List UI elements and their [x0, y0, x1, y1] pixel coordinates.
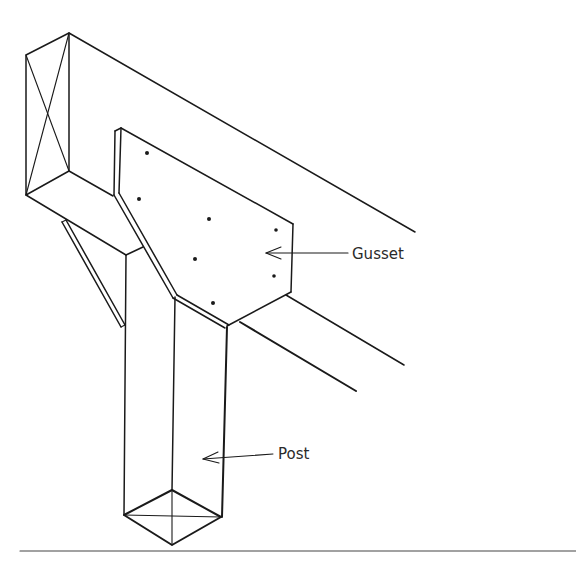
connection-diagram: Gusset Post [0, 0, 576, 573]
gusset-label: Gusset [352, 245, 404, 263]
gusset-plate [114, 128, 293, 328]
post-label: Post [278, 445, 310, 463]
post-callout: Post [203, 445, 310, 463]
beam [26, 33, 415, 391]
post [124, 255, 227, 545]
bolts [137, 151, 278, 305]
gusset-callout: Gusset [266, 245, 404, 263]
